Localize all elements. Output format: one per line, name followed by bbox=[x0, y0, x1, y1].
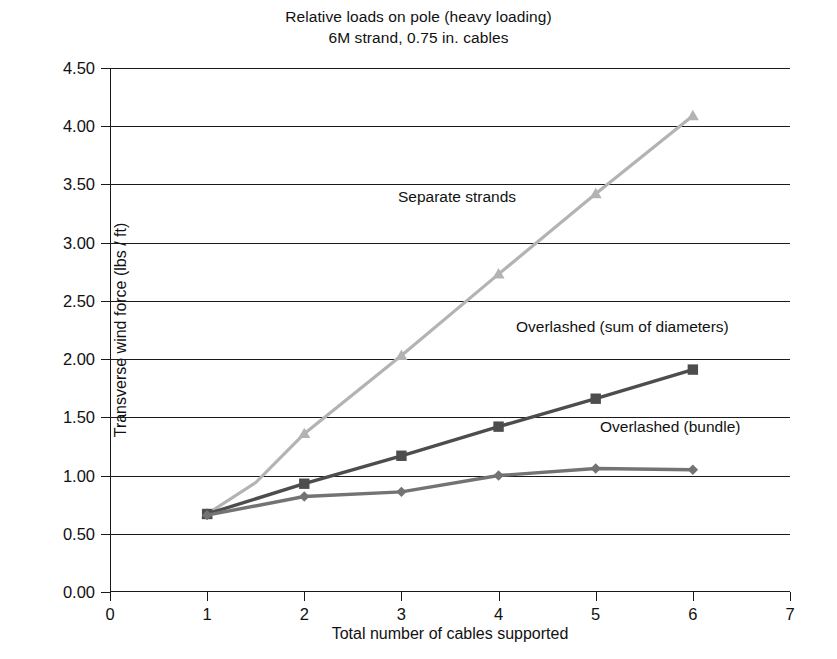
y-axis-tick bbox=[101, 359, 110, 360]
x-axis-tick bbox=[790, 592, 791, 601]
x-axis-tick bbox=[596, 592, 597, 601]
square-marker bbox=[591, 394, 601, 404]
series-line bbox=[207, 116, 693, 514]
series-line bbox=[207, 370, 693, 514]
y-axis-tick bbox=[101, 476, 110, 477]
y-axis-tick bbox=[101, 592, 110, 593]
square-marker bbox=[396, 451, 406, 461]
series-annotation-2: Overlashed (bundle) bbox=[600, 418, 740, 436]
y-axis-tick-label: 1.00 bbox=[63, 466, 95, 485]
series-0 bbox=[201, 110, 699, 519]
y-axis-tick bbox=[101, 68, 110, 69]
y-axis-tick-label: 0.50 bbox=[63, 524, 95, 543]
y-axis-tick bbox=[101, 417, 110, 418]
diamond-marker bbox=[688, 465, 698, 475]
y-axis-tick-label: 4.00 bbox=[63, 117, 95, 136]
chart-subtitle: 6M strand, 0.75 in. cables bbox=[0, 27, 837, 48]
x-axis-tick-label: 6 bbox=[688, 605, 697, 624]
x-axis-tick-label: 7 bbox=[785, 605, 794, 624]
diamond-marker bbox=[591, 463, 601, 473]
x-axis-tick-label: 5 bbox=[591, 605, 600, 624]
diamond-marker bbox=[493, 470, 503, 480]
y-axis-tick-label: 2.50 bbox=[63, 291, 95, 310]
y-axis-tick bbox=[101, 184, 110, 185]
series-annotation-1: Overlashed (sum of diameters) bbox=[516, 318, 729, 336]
y-axis-tick-label: 3.00 bbox=[63, 233, 95, 252]
x-axis-tick bbox=[110, 592, 111, 601]
y-axis-tick bbox=[101, 126, 110, 127]
diamond-marker bbox=[396, 487, 406, 497]
x-axis-tick bbox=[693, 592, 694, 601]
triangle-marker bbox=[687, 110, 699, 120]
x-axis-tick-label: 3 bbox=[397, 605, 406, 624]
square-marker bbox=[299, 479, 309, 489]
y-axis-tick-label: 4.50 bbox=[63, 59, 95, 78]
x-axis-tick bbox=[207, 592, 208, 601]
chart-figure: Relative loads on pole (heavy loading) 6… bbox=[0, 0, 837, 659]
series-annotation-0: Separate strands bbox=[398, 188, 516, 206]
diamond-marker bbox=[299, 491, 309, 501]
x-axis-tick bbox=[401, 592, 402, 601]
x-axis-tick-label: 1 bbox=[203, 605, 212, 624]
chart-title-block: Relative loads on pole (heavy loading) 6… bbox=[0, 6, 837, 48]
x-axis-tick-label: 2 bbox=[300, 605, 309, 624]
y-axis-tick bbox=[101, 243, 110, 244]
x-axis-title: Total number of cables supported bbox=[110, 625, 790, 643]
x-axis-tick bbox=[499, 592, 500, 601]
y-axis-tick-label: 1.50 bbox=[63, 408, 95, 427]
x-axis-tick bbox=[304, 592, 305, 601]
square-marker bbox=[493, 421, 503, 431]
x-axis-tick-label: 4 bbox=[494, 605, 503, 624]
y-axis-tick bbox=[101, 301, 110, 302]
y-axis-tick-label: 2.00 bbox=[63, 350, 95, 369]
y-axis-tick bbox=[101, 534, 110, 535]
y-axis-tick-label: 0.00 bbox=[63, 583, 95, 602]
chart-title: Relative loads on pole (heavy loading) bbox=[0, 6, 837, 27]
square-marker bbox=[688, 364, 698, 374]
x-axis-tick-label: 0 bbox=[105, 605, 114, 624]
y-axis-tick-label: 3.50 bbox=[63, 175, 95, 194]
series-1 bbox=[202, 364, 698, 519]
